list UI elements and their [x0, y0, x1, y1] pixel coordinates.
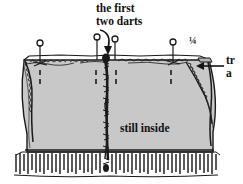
label-first-two-darts-line2: two darts	[96, 15, 142, 28]
label-still-inside: still inside	[120, 122, 170, 135]
fabric-body	[22, 60, 215, 152]
label-trim-away-line1: tr	[226, 54, 235, 67]
arrow-down-to-darts	[100, 30, 112, 55]
label-trim-away: tr a	[226, 54, 235, 80]
label-trim-away-line2: a	[226, 67, 235, 80]
top-fold-line	[24, 55, 210, 60]
bottom-fringe	[14, 150, 220, 177]
label-first-two-darts: the first two darts	[96, 2, 142, 28]
label-first-two-darts-line1: the first	[96, 2, 142, 15]
label-quarter-inch: ¼	[189, 35, 197, 46]
